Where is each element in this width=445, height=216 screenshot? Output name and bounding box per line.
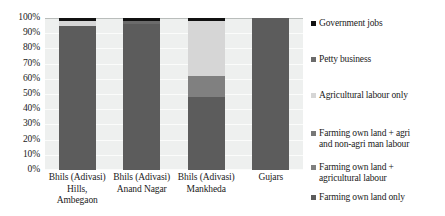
- y-axis-tick-label: 10%: [23, 150, 40, 160]
- x-axis-category-label: Gujars: [239, 172, 304, 216]
- x-axis-category-label: Bhils (Adivasi)Mankheda: [174, 172, 239, 216]
- bar-group: [110, 18, 175, 170]
- bar-group: [174, 18, 239, 170]
- bar-group: [239, 18, 304, 170]
- legend-item-label: Farming own land only: [319, 192, 405, 203]
- y-axis-tick-label: 70%: [23, 59, 40, 69]
- legend-item[interactable]: Petty business: [311, 54, 445, 65]
- y-axis-tick-label: 30%: [23, 119, 40, 129]
- bar-segment[interactable]: [188, 21, 225, 76]
- bar-group: [45, 18, 110, 170]
- bar-segment[interactable]: [123, 24, 160, 170]
- bar-segment[interactable]: [252, 18, 289, 170]
- bar-segment[interactable]: [59, 26, 96, 170]
- stacked-bar[interactable]: [188, 18, 225, 170]
- bars-container: [45, 18, 303, 170]
- legend-color-swatch: [311, 165, 316, 170]
- legend-item[interactable]: Agricultural labour only: [311, 90, 445, 101]
- legend-color-swatch: [311, 131, 316, 136]
- x-axis-category-label: Bhils (Adivasi)Anand Nagar: [110, 172, 175, 216]
- y-axis-tick-label: 100%: [18, 13, 40, 23]
- plot-area: [45, 18, 303, 170]
- legend-item[interactable]: Farming own land + agriand non-agri man …: [311, 128, 445, 150]
- y-axis-tick-label: 80%: [23, 43, 40, 53]
- legend-color-swatch: [311, 57, 316, 62]
- legend-item-label: Petty business: [319, 54, 371, 65]
- stacked-bar-chart: 100%90%80%70%60%50%40%30%20%10%0% Bhils …: [0, 0, 445, 216]
- y-axis-tick-label: 40%: [23, 104, 40, 114]
- chart-legend: Government jobsPetty businessAgricultura…: [311, 14, 445, 204]
- legend-item-label: Agricultural labour only: [319, 90, 408, 101]
- legend-color-swatch: [311, 21, 316, 26]
- y-axis-tick-label: 20%: [23, 135, 40, 145]
- stacked-bar[interactable]: [59, 18, 96, 170]
- bar-segment[interactable]: [188, 76, 225, 97]
- legend-item[interactable]: Farming own land +agricultural labour: [311, 162, 445, 184]
- y-axis-tick-label: 0%: [28, 165, 40, 175]
- stacked-bar[interactable]: [252, 18, 289, 170]
- x-axis: Bhils (Adivasi)Hills,AmbegaonBhils (Adiv…: [45, 172, 303, 216]
- stacked-bar[interactable]: [123, 18, 160, 170]
- x-axis-category-label: Bhils (Adivasi)Hills,Ambegaon: [45, 172, 110, 216]
- legend-item-label: Farming own land + agriand non-agri man …: [319, 128, 410, 150]
- y-axis-tick-label: 90%: [23, 28, 40, 38]
- y-axis: 100%90%80%70%60%50%40%30%20%10%0%: [0, 12, 42, 172]
- legend-color-swatch: [311, 93, 316, 98]
- y-axis-tick-label: 60%: [23, 74, 40, 84]
- legend-color-swatch: [311, 195, 316, 200]
- legend-item-label: Government jobs: [319, 18, 382, 29]
- y-axis-tick-label: 50%: [23, 89, 40, 99]
- bar-segment[interactable]: [188, 97, 225, 170]
- legend-item[interactable]: Government jobs: [311, 18, 445, 29]
- legend-item-label: Farming own land +agricultural labour: [319, 162, 394, 184]
- legend-item[interactable]: Farming own land only: [311, 192, 445, 203]
